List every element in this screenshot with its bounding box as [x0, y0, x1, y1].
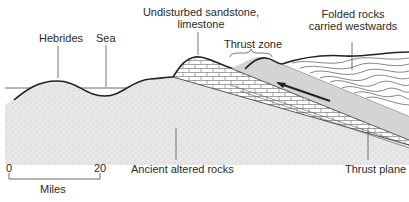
label-thrust-plane: Thrust plane [345, 163, 406, 175]
label-sea: Sea [96, 32, 116, 44]
scale-unit: Miles [40, 183, 66, 195]
scale-end: 20 [94, 162, 106, 174]
label-folded-line1: Folded rocks [305, 8, 401, 20]
label-ancient-rocks: Ancient altered rocks [131, 163, 234, 175]
label-undisturbed-line1: Undisturbed sandstone, [142, 6, 260, 18]
label-undisturbed: Undisturbed sandstone, limestone [142, 6, 260, 30]
label-folded-line2: carried westwards [305, 20, 401, 32]
scale-start: 0 [6, 162, 12, 174]
thrust-zone-brace [230, 49, 272, 57]
label-hebrides: Hebrides [39, 32, 83, 44]
label-folded-rocks: Folded rocks carried westwards [305, 8, 401, 32]
label-undisturbed-line2: limestone [142, 18, 260, 30]
scale-bar [9, 173, 100, 179]
label-thrust-zone: Thrust zone [224, 38, 282, 50]
